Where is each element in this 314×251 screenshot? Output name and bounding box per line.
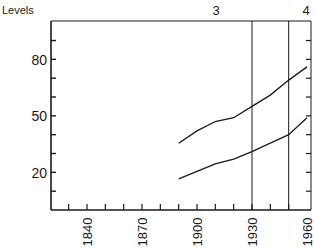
period-label-4: 4 bbox=[302, 3, 309, 18]
plot-frame bbox=[51, 21, 311, 210]
y-tick-label-20: 20 bbox=[31, 165, 47, 181]
period-divider-lines bbox=[252, 21, 289, 210]
y-axis-label: Levels bbox=[2, 4, 34, 16]
y-axis-ticks-right bbox=[306, 41, 311, 192]
x-tick-label-1930: 1930 bbox=[245, 218, 260, 247]
x-tick-label-1840: 1840 bbox=[80, 218, 95, 247]
x-tick-label-1870: 1870 bbox=[135, 218, 150, 247]
x-tick-label-1900: 1900 bbox=[190, 218, 205, 247]
lower-series-line bbox=[179, 118, 307, 179]
period-label-3: 3 bbox=[212, 3, 219, 18]
y-tick-label-80: 80 bbox=[31, 52, 47, 68]
x-axis-ticks bbox=[69, 204, 289, 210]
line-chart: Levels 3 4 80 50 20 1840 1870 1900 1930 … bbox=[0, 0, 314, 251]
upper-series-line bbox=[179, 67, 307, 143]
x-tick-label-1960: 1960 bbox=[300, 218, 314, 247]
y-tick-label-50: 50 bbox=[31, 108, 47, 124]
